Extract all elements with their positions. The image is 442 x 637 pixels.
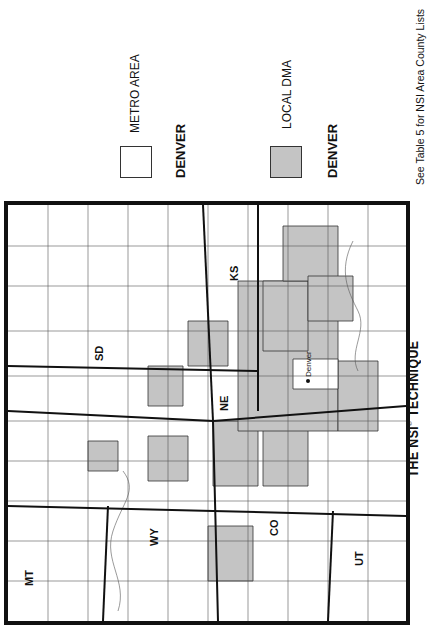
map-graphic: MT WY SD NE CO KS UT Denver xyxy=(8,205,406,621)
legend-local-dma: LOCAL DMA xyxy=(280,60,294,129)
footer-title: TECHNIQUE xyxy=(404,341,421,421)
page-footer: THE NSI® TECHNIQUE xyxy=(404,225,421,594)
legend-local-market: DENVER xyxy=(325,124,340,178)
denver-city-marker xyxy=(306,379,310,383)
state-label-ne: NE xyxy=(218,396,230,411)
state-label-sd: SD xyxy=(93,346,105,361)
dma-map: MT WY SD NE CO KS UT Denver xyxy=(4,201,410,625)
state-label-ks: KS xyxy=(228,266,240,281)
footer-title: THE NSI xyxy=(404,426,421,477)
legend-metro-market: DENVER xyxy=(173,124,188,178)
state-label-mt: MT xyxy=(23,570,35,586)
state-label-wy: WY xyxy=(148,528,160,546)
state-label-ut: UT xyxy=(353,551,365,566)
rotated-page: MARKET TYPE DMA TV Ratings Estimates MAP… xyxy=(0,0,442,637)
county-list-note: See Table 5 for NSI Area County Lists xyxy=(414,9,426,185)
denver-city-label: Denver xyxy=(304,351,313,377)
local-dma-swatch xyxy=(270,146,302,178)
registered-mark: ® xyxy=(405,421,414,426)
metro-area-swatch xyxy=(120,146,152,178)
legend-metro-area: METRO AREA xyxy=(128,54,142,133)
state-label-co: CO xyxy=(268,519,280,536)
